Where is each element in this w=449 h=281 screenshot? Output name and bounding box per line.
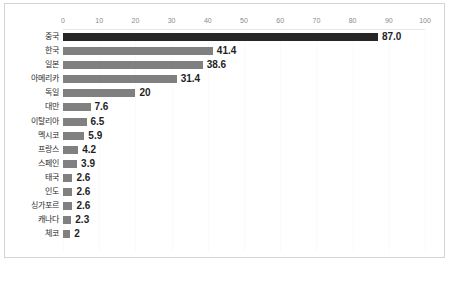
category-label: 독일 — [5, 86, 59, 100]
bar-value-label: 41.4 — [213, 44, 236, 58]
bar-row: 캐나다2.3 — [5, 213, 446, 227]
bar-value-label: 2.6 — [72, 185, 90, 199]
bar-value-label: 6.5 — [87, 115, 105, 129]
bar-value-label: 87.0 — [378, 30, 401, 44]
bar-value-label: 5.9 — [84, 129, 102, 143]
bar-value-label: 4.2 — [78, 143, 96, 157]
bar — [63, 132, 84, 140]
category-label: 멕시코 — [5, 129, 59, 143]
bar-row: 멕시코5.9 — [5, 129, 446, 143]
category-label: 일본 — [5, 58, 59, 72]
bar-value-label: 2.6 — [72, 199, 90, 213]
bar-row: 인도2.6 — [5, 185, 446, 199]
category-label: 아메리카 — [5, 72, 59, 86]
x-axis-tick-label: 10 — [95, 16, 103, 26]
bar — [63, 75, 177, 83]
category-label: 이탈리아 — [5, 115, 59, 129]
category-label: 한국 — [5, 44, 59, 58]
bar-value-label: 2.6 — [72, 171, 90, 185]
bar — [63, 33, 378, 41]
bar-row: 대만7.6 — [5, 100, 446, 114]
bar — [63, 160, 77, 168]
bar-value-label: 38.6 — [203, 58, 226, 72]
x-axis-tick-label: 30 — [168, 16, 176, 26]
bar-row: 아메리카31.4 — [5, 72, 446, 86]
bar — [63, 47, 213, 55]
x-axis-tick-label: 20 — [131, 16, 139, 26]
category-label: 싱가포르 — [5, 199, 59, 213]
bar — [63, 103, 91, 111]
bar-row: 이탈리아6.5 — [5, 115, 446, 129]
chart-container: 0102030405060708090100 중국87.0한국41.4일본38.… — [4, 3, 445, 258]
bar-row: 일본38.6 — [5, 58, 446, 72]
bar-row: 프랑스4.2 — [5, 143, 446, 157]
bar-row: 체코2 — [5, 227, 446, 241]
bar-value-label: 2.3 — [71, 213, 89, 227]
bar — [63, 89, 135, 97]
bar-value-label: 7.6 — [91, 100, 109, 114]
category-label: 인도 — [5, 185, 59, 199]
x-axis-tick-label: 70 — [312, 16, 320, 26]
bar — [63, 61, 203, 69]
category-label: 프랑스 — [5, 143, 59, 157]
bar-row: 한국41.4 — [5, 44, 446, 58]
category-label: 중국 — [5, 30, 59, 44]
category-label: 대만 — [5, 100, 59, 114]
bar-value-label: 3.9 — [77, 157, 95, 171]
bar-value-label: 2 — [70, 227, 80, 241]
x-axis-tick-label: 40 — [204, 16, 212, 26]
x-axis-tick-label: 100 — [419, 16, 431, 26]
category-label: 태국 — [5, 171, 59, 185]
bar — [63, 174, 72, 182]
bar-value-label: 20 — [135, 86, 150, 100]
x-axis-tick-label: 0 — [61, 16, 65, 26]
x-axis-tick-label: 60 — [276, 16, 284, 26]
bar — [63, 118, 87, 126]
bar — [63, 216, 71, 224]
bar — [63, 202, 72, 210]
bar-row: 태국2.6 — [5, 171, 446, 185]
bar — [63, 230, 70, 238]
bar-row: 중국87.0 — [5, 30, 446, 44]
bar — [63, 188, 72, 196]
category-label: 체코 — [5, 227, 59, 241]
x-axis-tick-labels: 0102030405060708090100 — [5, 16, 446, 30]
bar — [63, 146, 78, 154]
x-axis-tick-label: 80 — [349, 16, 357, 26]
bar-row: 싱가포르2.6 — [5, 199, 446, 213]
bar-row: 독일20 — [5, 86, 446, 100]
bar-plot-area: 중국87.0한국41.4일본38.6아메리카31.4독일20대만7.6이탈리아6… — [5, 30, 446, 254]
bar-row: 스페인3.9 — [5, 157, 446, 171]
bar-value-label: 31.4 — [177, 72, 200, 86]
category-label: 캐나다 — [5, 213, 59, 227]
x-axis-tick-label: 90 — [385, 16, 393, 26]
category-label: 스페인 — [5, 157, 59, 171]
x-axis-tick-label: 50 — [240, 16, 248, 26]
